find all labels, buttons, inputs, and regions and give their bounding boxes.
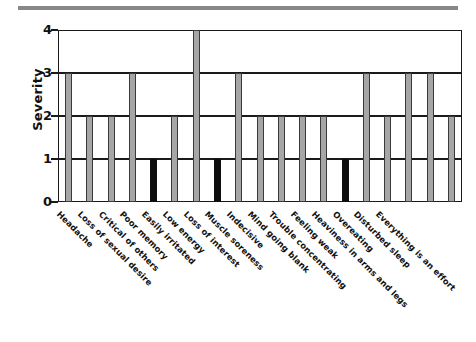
x-axis-category-labels: HeadacheLoss of sexual desireCritical of… [0,205,476,342]
top-divider-rule [18,6,458,10]
bar [320,116,327,202]
bar [278,116,285,202]
bar [384,116,391,202]
bar [448,116,455,202]
bar [150,159,157,202]
bar [427,73,434,202]
bar [86,116,93,202]
bar-chart-figure: 01234 Severity HeadacheLoss of sexual de… [0,0,476,342]
bar [405,73,412,202]
y-tick-4 [51,29,58,31]
bar [65,73,72,202]
bar [342,159,349,202]
bar [108,116,115,202]
bar [299,116,306,202]
y-tick-1 [51,158,58,160]
bar [193,30,200,202]
y-tick-0 [51,201,58,203]
bar [363,73,370,202]
bar [235,73,242,202]
y-tick-2 [51,115,58,117]
bar [214,159,221,202]
y-tick-3 [51,72,58,74]
y-axis-title: Severity [30,45,45,155]
bars-group [58,30,462,202]
bar [129,73,136,202]
bar [257,116,264,202]
y-tick-label-4: 4 [26,23,52,36]
bar [171,116,178,202]
